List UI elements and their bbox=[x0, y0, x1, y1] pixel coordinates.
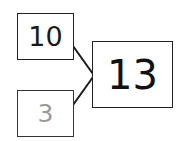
part-box-top: 10 bbox=[17, 13, 74, 60]
part-box-bottom: 3 bbox=[17, 90, 74, 137]
part-value-top: 10 bbox=[28, 23, 62, 50]
connector-bottom bbox=[73, 77, 93, 105]
whole-box: 13 bbox=[92, 41, 173, 108]
connector-top bbox=[73, 46, 93, 74]
whole-value: 13 bbox=[107, 55, 158, 95]
part-value-bottom: 3 bbox=[38, 101, 54, 126]
